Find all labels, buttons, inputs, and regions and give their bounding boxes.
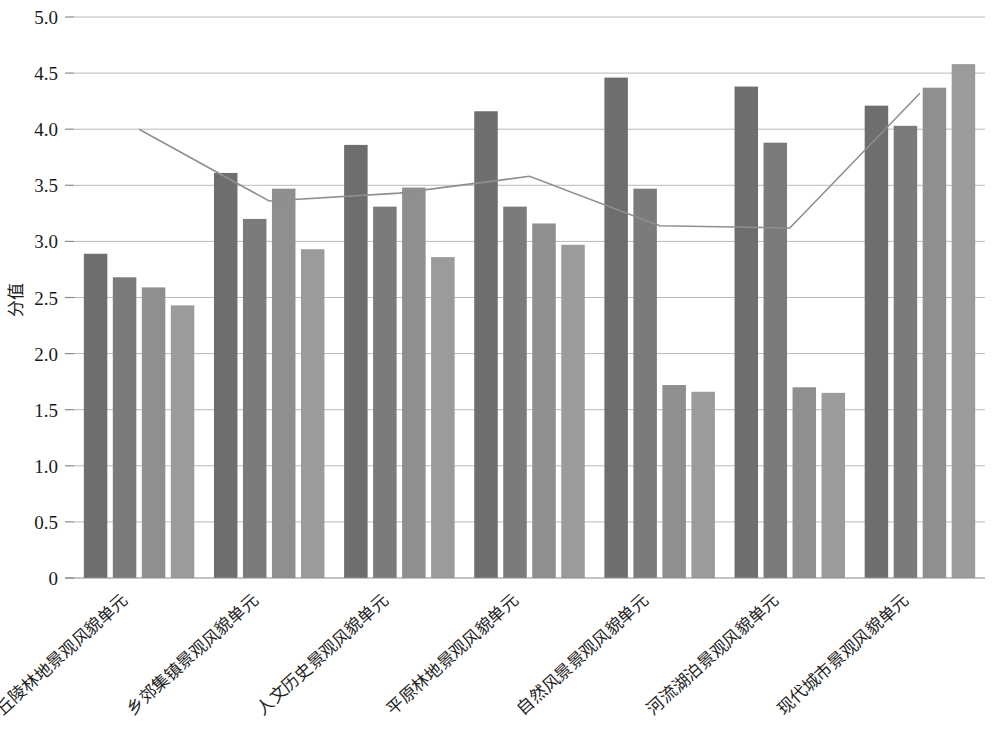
bar xyxy=(214,173,238,578)
bar xyxy=(604,78,628,578)
bar xyxy=(171,305,195,578)
bar xyxy=(142,287,166,578)
bar xyxy=(402,188,426,578)
bar xyxy=(793,387,817,578)
chart-container: 00.51.01.52.02.53.03.54.04.55.0 丘陵林地景观风貌… xyxy=(0,0,993,737)
x-axis-category-label: 河流湖泊景观风貌单元 xyxy=(643,590,783,719)
x-axis-category-label: 乡郊集镇景观风貌单元 xyxy=(122,590,262,719)
y-axis-tick-label: 3.5 xyxy=(34,175,58,196)
x-axis-category-label: 自然风景景观风貌单元 xyxy=(513,590,653,719)
bar xyxy=(373,207,397,578)
x-axis-category-label: 丘陵林地景观风貌单元 xyxy=(0,590,132,719)
y-axis-title-label: 分值 xyxy=(6,283,26,317)
bar xyxy=(952,64,976,578)
bar xyxy=(923,88,947,578)
bar xyxy=(272,189,296,578)
y-axis-tick-label: 3.0 xyxy=(34,231,58,252)
bar xyxy=(735,87,759,578)
y-axis-tick-label: 1.5 xyxy=(34,400,58,421)
y-axis-tick-label: 2.0 xyxy=(34,344,58,365)
bar xyxy=(243,219,267,578)
trend-line xyxy=(139,93,920,228)
bar xyxy=(561,245,585,578)
y-axis-tick-label: 4.5 xyxy=(34,63,58,84)
y-axis-tick-labels: 00.51.01.52.02.53.03.54.04.55.0 xyxy=(34,7,58,589)
x-axis-category-labels: 丘陵林地景观风貌单元乡郊集镇景观风貌单元人文历史景观风貌单元平原林地景观风貌单元… xyxy=(0,590,913,719)
x-axis-category-label: 人文历史景观风貌单元 xyxy=(252,590,392,719)
bar xyxy=(894,126,918,578)
bar xyxy=(822,393,846,578)
y-axis-tick-label: 5.0 xyxy=(34,7,58,28)
bar xyxy=(344,145,368,578)
bar xyxy=(113,277,137,578)
bars-group xyxy=(84,64,975,578)
bar xyxy=(662,385,686,578)
bar xyxy=(503,207,527,578)
y-axis-tick-label: 0.5 xyxy=(34,512,58,533)
y-axis-tick-label: 4.0 xyxy=(34,119,58,140)
trend-line-group xyxy=(139,93,920,228)
bar xyxy=(865,106,889,578)
bar xyxy=(84,254,108,578)
grouped-bar-chart: 00.51.01.52.02.53.03.54.04.55.0 丘陵林地景观风貌… xyxy=(0,0,993,737)
y-axis-tick-label: 1.0 xyxy=(34,456,58,477)
bar xyxy=(431,257,455,578)
y-axis-tick-label: 2.5 xyxy=(34,288,58,309)
x-axis-category-label: 现代城市景观风貌单元 xyxy=(773,590,913,719)
bar xyxy=(301,249,325,578)
gridlines-group xyxy=(74,17,985,522)
bar xyxy=(532,223,556,578)
y-axis-title: 分值 xyxy=(6,283,26,317)
bar xyxy=(764,143,788,578)
x-axis-category-label: 平原林地景观风貌单元 xyxy=(382,590,522,719)
y-axis-ticks xyxy=(65,17,74,578)
bar xyxy=(633,189,657,578)
y-axis-tick-label: 0 xyxy=(49,568,59,589)
bar xyxy=(691,392,715,578)
